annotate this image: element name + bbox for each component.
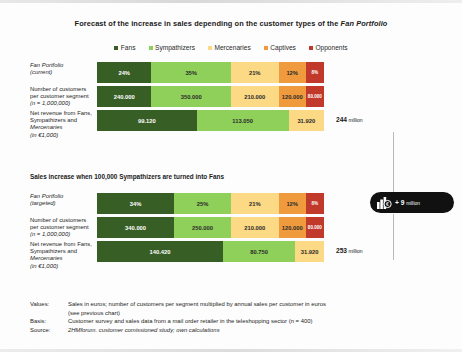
row-total-unit: million [347, 117, 363, 123]
bar-chart-euro-icon: € [377, 197, 392, 209]
increase-badge[interactable]: € + 9 million [370, 192, 454, 213]
bar-segment[interactable]: 31.920 [295, 241, 324, 262]
chart-row: Number of customersper customer segment(… [0, 86, 462, 107]
bar-segment[interactable]: 140.420 [97, 241, 223, 262]
legend: FansSympathizersMercenariesCaptivesOppon… [0, 44, 462, 51]
legend-item-captives[interactable]: Captives [264, 44, 296, 51]
footer-source-text: 2HMforum. customer comissioned study; ow… [68, 326, 450, 335]
stacked-bar: 340.000250.000210.000120.00080.000 [97, 217, 324, 238]
legend-item-fans[interactable]: Fans [114, 44, 135, 51]
bar-segment[interactable]: 25% [174, 193, 231, 214]
footer-basis-text: Customer survey and sales data from a ma… [68, 317, 450, 326]
chart-row-label-line: Net revenue from Fans, [30, 110, 92, 117]
footer-values-row: Values: Sales in euros; number of custom… [30, 300, 450, 309]
chart-row-label-line: (targeted) [30, 200, 92, 207]
footer-values-key: Values: [30, 300, 68, 309]
bar-segment[interactable]: 250.000 [174, 217, 231, 238]
legend-item-mercenaries[interactable]: Mercenaries [208, 44, 251, 51]
legend-swatch-icon [114, 46, 118, 50]
page-title-emphasis: Fan Portfolio [341, 19, 388, 28]
footer-source-key: Source: [30, 326, 68, 335]
svg-text:€: € [386, 201, 389, 207]
footer-values-text2: (see previous chart) [68, 309, 450, 318]
footer-source-row: Source: 2HMforum. customer comissioned s… [30, 326, 450, 335]
footer-basis-key: Basis: [30, 317, 68, 326]
bar-segment[interactable]: 340.000 [97, 217, 174, 238]
page-title: Forecast of the increase in sales depend… [0, 19, 462, 28]
chart-row-label-line: (in €1,000) [30, 132, 92, 139]
bar-segment[interactable]: 120.000 [279, 217, 306, 238]
chart-row-label-line: Number of customers [30, 86, 92, 93]
chart-row-label-line: Sympathizers and [30, 117, 92, 124]
chart-row-label-line: Fan Portfolio [30, 62, 92, 69]
page-title-text: Forecast of the increase in sales depend… [75, 19, 341, 28]
legend-swatch-icon [208, 46, 212, 50]
bar-segment[interactable]: 80.000 [306, 217, 324, 238]
chart-row: Fan Portfolio(current)24%35%21%12%8% [0, 62, 462, 83]
footer-values-text: Sales in euros; number of customers per … [68, 300, 450, 309]
stacked-bar: 240.000350.000210.000120.00080.000 [97, 86, 324, 107]
chart-row-label: Fan Portfolio(targeted) [30, 193, 92, 207]
bar-segment[interactable]: 210.000 [231, 217, 279, 238]
bar-segment[interactable]: 8% [306, 193, 324, 214]
footer-basis-row: Basis: Customer survey and sales data fr… [30, 317, 450, 326]
chart-row-label-line: (current) [30, 69, 92, 76]
increase-badge-label: + 9 million [395, 199, 420, 206]
legend-item-label: Mercenaries [214, 44, 250, 51]
chart-row: Net revenue from Fans,Sympathizers andMe… [0, 110, 462, 131]
chart-row-label: Number of customersper customer segment(… [30, 86, 92, 108]
bar-segment[interactable]: 24% [97, 62, 151, 83]
row-total-value: 253 [336, 247, 347, 254]
stacked-bar: 24%35%21%12%8% [97, 62, 324, 83]
chart-row-label-line: (n = 1,000,000) [30, 100, 92, 107]
legend-item-sympathizers[interactable]: Sympathizers [149, 44, 195, 51]
increase-badge-value: + 9 [395, 199, 404, 206]
legend-item-label: Captives [270, 44, 296, 51]
chart-row-label-line: Sympathizers and [30, 248, 92, 255]
bar-segment[interactable]: 31.920 [289, 110, 324, 131]
chart-page: Forecast of the increase in sales depend… [0, 0, 462, 352]
chart-row-label-line: Fan Portfolio [30, 193, 92, 200]
bar-segment[interactable]: 99.120 [97, 110, 197, 131]
stacked-bar: 140.42080.75031.920 [97, 241, 324, 262]
bar-segment[interactable]: 21% [231, 193, 279, 214]
bar-segment[interactable]: 35% [151, 62, 230, 83]
bar-segment[interactable]: 12% [279, 193, 306, 214]
chart-row-label-line: Net revenue from Fans, [30, 241, 92, 248]
legend-swatch-icon [309, 46, 313, 50]
section-heading-targeted: Sales increase when 100,000 Sympathizers… [30, 173, 224, 180]
chart-panel-current: Fan Portfolio(current)24%35%21%12%8%Numb… [0, 62, 462, 134]
bar-segment[interactable]: 21% [231, 62, 279, 83]
chart-row-label-line: Mercenaries [30, 255, 92, 262]
chart-row-label-line: per customer segment [30, 93, 92, 100]
chart-row-label-line: (n = 1,000,000) [30, 231, 92, 238]
bar-segment[interactable]: 8% [306, 62, 324, 83]
row-total-unit: million [347, 248, 363, 254]
row-total-value: 244 [336, 116, 347, 123]
legend-swatch-icon [149, 46, 153, 50]
bar-segment[interactable]: 350.000 [151, 86, 230, 107]
bar-segment[interactable]: 120.000 [279, 86, 306, 107]
connector-line-bottom [393, 214, 394, 260]
stacked-bar: 99.120113.05031.920 [97, 110, 324, 131]
connector-line-top [393, 132, 394, 194]
chart-row-label: Fan Portfolio(current) [30, 62, 92, 76]
bar-segment[interactable]: 240.000 [97, 86, 151, 107]
bar-segment[interactable]: 113.050 [197, 110, 289, 131]
row-total-label: 244 million [336, 116, 363, 123]
bar-segment[interactable]: 34% [97, 193, 174, 214]
bar-segment[interactable]: 210.000 [231, 86, 279, 107]
bar-segment[interactable]: 80.750 [223, 241, 295, 262]
legend-swatch-icon [264, 46, 268, 50]
stacked-bar: 34%25%21%12%8% [97, 193, 324, 214]
chart-row-label-line: per customer segment [30, 224, 92, 231]
bar-segment[interactable]: 12% [279, 62, 306, 83]
footer-notes: Values: Sales in euros; number of custom… [30, 300, 450, 334]
legend-item-opponents[interactable]: Opponents [309, 44, 348, 51]
row-total-label: 253 million [336, 247, 363, 254]
top-rule [0, 0, 462, 3]
chart-row-label-line: Number of customers [30, 217, 92, 224]
chart-row-label: Number of customersper customer segment(… [30, 217, 92, 239]
bar-segment[interactable]: 80.000 [306, 86, 324, 107]
legend-item-label: Opponents [315, 44, 347, 51]
